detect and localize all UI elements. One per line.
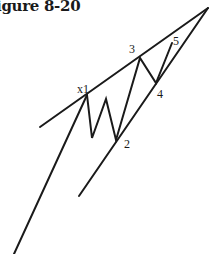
label-wave-3: 3 xyxy=(129,42,135,56)
figure-canvas: igure 8-20 x1 2 3 4 5 xyxy=(0,0,211,254)
label-wave-4: 4 xyxy=(157,87,163,101)
lower-trendline xyxy=(79,8,208,196)
label-wave-5: 5 xyxy=(173,34,179,48)
label-x1: x1 xyxy=(77,82,89,96)
wave-diagram: x1 2 3 4 5 xyxy=(0,0,211,254)
label-wave-2: 2 xyxy=(124,137,130,151)
